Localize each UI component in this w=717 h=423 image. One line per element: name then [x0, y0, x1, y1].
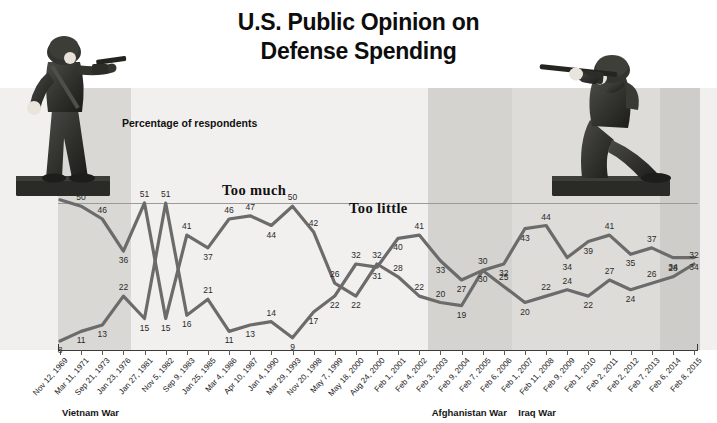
- data-point-label: 13: [245, 329, 254, 339]
- data-point-label: 34: [668, 262, 677, 272]
- x-axis-tick: [102, 350, 103, 355]
- x-axis-tick: [398, 350, 399, 355]
- x-axis-tick: [314, 350, 315, 355]
- x-axis-tick: [123, 350, 124, 355]
- data-point-label: 46: [224, 205, 233, 215]
- series-label-too-little: Too little: [349, 200, 408, 217]
- band-label-afghanistan-war: Afghanistan War: [432, 407, 507, 418]
- x-axis-cap-right: [697, 344, 698, 351]
- data-point-label: 37: [647, 234, 656, 244]
- data-point-label: 37: [203, 252, 212, 262]
- data-point-label: 19: [457, 310, 466, 320]
- x-axis-tick: [81, 350, 82, 355]
- infographic-root: Vietnam War Afghanistan War Iraq War U.S…: [0, 0, 717, 423]
- band-label-iraq-war: Iraq War: [518, 407, 556, 418]
- x-axis-tick: [567, 350, 568, 355]
- x-axis-tick: [356, 350, 357, 355]
- x-axis-tick: [673, 350, 674, 355]
- title-line-1: U.S. Public Opinion on: [0, 8, 717, 37]
- data-point-label: 34: [689, 262, 698, 272]
- data-point-label: 41: [605, 221, 614, 231]
- data-point-label: 15: [140, 323, 149, 333]
- data-point-label: 8: [58, 345, 63, 355]
- band-vietnam-war: [58, 88, 131, 350]
- data-point-label: 36: [119, 255, 128, 265]
- x-axis-tick: [652, 350, 653, 355]
- data-point-label: 44: [267, 230, 276, 240]
- x-axis-tick: [419, 350, 420, 355]
- series-label-too-much: Too much: [222, 182, 286, 199]
- data-point-label: 33: [436, 265, 445, 275]
- data-point-label: 52: [55, 186, 64, 196]
- x-axis-tick: [377, 350, 378, 355]
- data-point-label: 30: [478, 256, 487, 266]
- data-point-label: 35: [626, 258, 635, 268]
- x-axis-tick: [440, 350, 441, 355]
- x-axis-tick: [631, 350, 632, 355]
- data-point-label: 50: [76, 192, 85, 202]
- data-point-label: 14: [267, 308, 276, 318]
- data-point-label: 22: [119, 282, 128, 292]
- data-point-label: 21: [203, 285, 212, 295]
- data-point-label: 43: [520, 233, 529, 243]
- data-point-label: 20: [436, 289, 445, 299]
- data-point-label: 17: [309, 316, 318, 326]
- x-axis-tick: [208, 350, 209, 355]
- data-point-label: 31: [372, 271, 381, 281]
- x-axis-tick: [504, 350, 505, 355]
- data-point-label: 30: [478, 274, 487, 284]
- data-point-label: 32: [351, 250, 360, 260]
- band-iraq-war: [512, 88, 660, 350]
- data-point-label: 20: [520, 307, 529, 317]
- data-point-label: 11: [77, 335, 86, 345]
- data-point-label: 27: [457, 284, 466, 294]
- page-title: U.S. Public Opinion on Defense Spending: [0, 8, 717, 66]
- data-point-label: 15: [161, 323, 170, 333]
- data-point-label: 32: [499, 268, 508, 278]
- x-axis-tick: [229, 350, 230, 355]
- x-axis-tick: [250, 350, 251, 355]
- band-afghanistan-war: [428, 88, 513, 350]
- band-tail-shade: [660, 88, 700, 350]
- data-point-label: 22: [351, 300, 360, 310]
- data-point-label: 42: [309, 218, 318, 228]
- data-point-label: 47: [245, 202, 254, 212]
- data-point-label: 51: [161, 189, 170, 199]
- x-axis-tick: [271, 350, 272, 355]
- x-axis-line: [58, 350, 698, 351]
- data-point-label: 22: [330, 300, 339, 310]
- x-axis-tick: [588, 350, 589, 355]
- data-point-label: 46: [98, 205, 107, 215]
- data-point-label: 11: [225, 335, 234, 345]
- x-axis-tick: [525, 350, 526, 355]
- band-label-vietnam-war: Vietnam War: [62, 407, 119, 418]
- data-point-label: 41: [182, 221, 191, 231]
- data-point-label: 22: [541, 282, 550, 292]
- data-point-label: 24: [562, 276, 571, 286]
- data-point-label: 22: [584, 300, 593, 310]
- data-point-label: 50: [288, 192, 297, 202]
- data-point-label: 27: [605, 266, 614, 276]
- x-axis-tick: [145, 350, 146, 355]
- data-point-label: 51: [140, 189, 149, 199]
- data-point-label: 39: [584, 246, 593, 256]
- x-axis-tick: [610, 350, 611, 355]
- data-point-label: 34: [562, 262, 571, 272]
- data-point-label: 26: [330, 269, 339, 279]
- data-point-label: 24: [626, 294, 635, 304]
- data-point-label: 22: [415, 282, 424, 292]
- x-axis-tick: [546, 350, 547, 355]
- data-point-label: 13: [98, 329, 107, 339]
- data-point-label: 28: [393, 263, 402, 273]
- x-axis-tick: [187, 350, 188, 355]
- data-point-label: 44: [541, 212, 550, 222]
- data-point-label: 16: [182, 319, 191, 329]
- x-axis-tick: [462, 350, 463, 355]
- x-axis-tick: [694, 350, 695, 355]
- x-axis-tick: [335, 350, 336, 355]
- data-point-label: 26: [647, 269, 656, 279]
- chart-caption: Percentage of respondents: [122, 117, 257, 129]
- data-point-label: 9: [290, 342, 295, 352]
- data-point-label: 40: [393, 242, 402, 252]
- title-line-2: Defense Spending: [0, 37, 717, 66]
